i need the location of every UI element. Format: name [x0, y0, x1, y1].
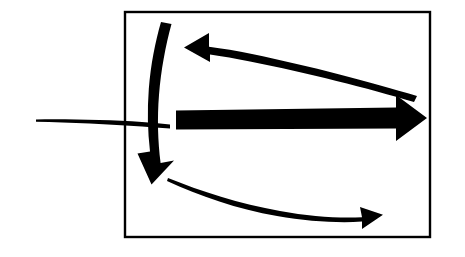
diagram-canvas [0, 0, 465, 257]
arrow-diagram [0, 0, 465, 257]
right-arrow [176, 95, 427, 141]
upper-left-arrow [184, 33, 417, 102]
down-arrow [138, 22, 175, 185]
lower-right-arrow [167, 178, 383, 229]
